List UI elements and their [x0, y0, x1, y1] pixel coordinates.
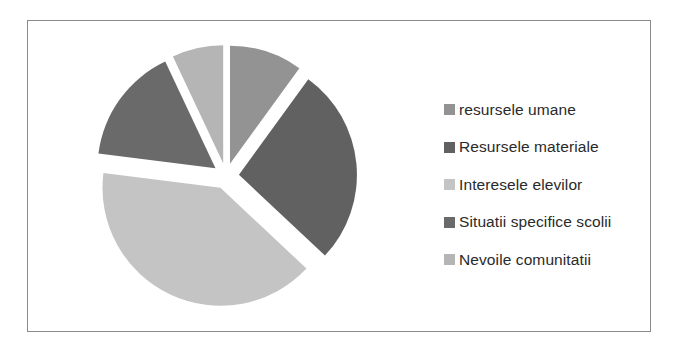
legend-item-resursele-umane: resursele umane — [444, 91, 611, 129]
legend-label: Resursele materiale — [459, 138, 599, 156]
legend-item-resursele-materiale: Resursele materiale — [444, 129, 611, 167]
legend-swatch — [444, 142, 455, 153]
legend-swatch — [444, 217, 455, 228]
legend-item-interesele-elevilor: Interesele elevilor — [444, 166, 611, 204]
legend-label: Interesele elevilor — [459, 176, 582, 194]
legend-label: Situatii specifice scolii — [459, 213, 611, 231]
chart-legend: resursele umane Resursele materiale Inte… — [444, 91, 611, 279]
legend-swatch — [444, 179, 455, 190]
legend-swatch — [444, 254, 455, 265]
legend-item-situatii-specifice-scolii: Situatii specifice scolii — [444, 204, 611, 242]
legend-swatch — [444, 104, 455, 115]
legend-label: Nevoile comunitatii — [459, 251, 591, 269]
legend-item-nevoile-comunitatii: Nevoile comunitatii — [444, 241, 611, 279]
legend-label: resursele umane — [459, 101, 576, 119]
